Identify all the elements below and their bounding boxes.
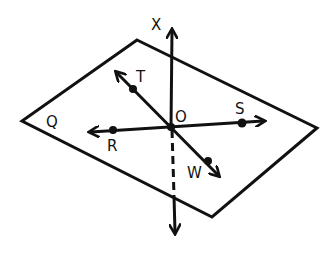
point-s	[238, 119, 247, 128]
label-q: Q	[46, 113, 58, 131]
label-w: W	[187, 164, 202, 182]
label-r: R	[107, 137, 117, 155]
label-s: S	[235, 100, 245, 118]
line-x-hidden-segment	[172, 130, 174, 196]
point-t	[129, 85, 137, 93]
label-x: X	[151, 16, 161, 34]
label-o: O	[175, 108, 187, 126]
point-w	[204, 157, 212, 165]
geometry-diagram: X Q T O S R W	[0, 0, 334, 256]
line-x-upper	[171, 31, 172, 127]
point-r	[109, 126, 117, 134]
label-t: T	[135, 68, 146, 86]
line-x-lower	[174, 196, 175, 232]
point-o	[167, 123, 175, 131]
